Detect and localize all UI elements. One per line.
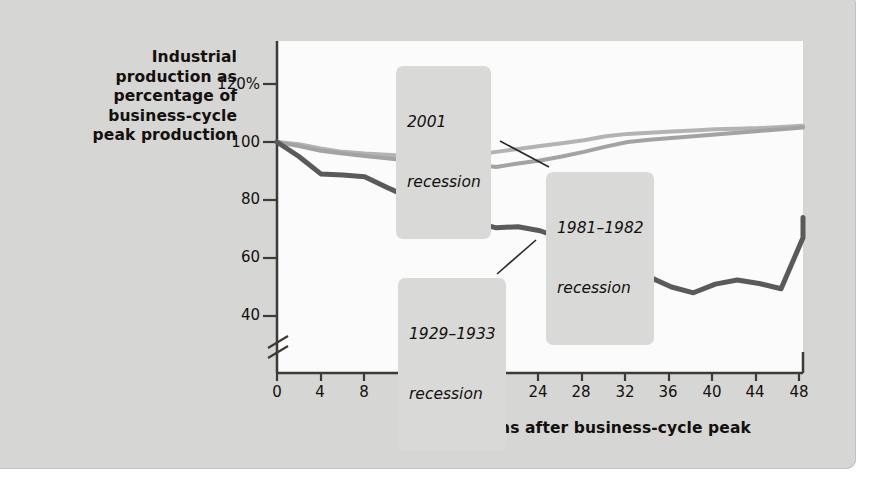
figure-container: Industrial production as percentage of b…: [0, 0, 891, 477]
callout-1929-1933-recession: 1929–1933 recession: [398, 278, 506, 451]
callout-line: recession: [407, 172, 481, 192]
callout-line: 2001: [407, 112, 481, 132]
plot-background: [277, 41, 803, 373]
callout-2001-recession: 2001 recession: [396, 66, 491, 239]
callout-1981-1982-recession: 1981–1982 recession: [546, 172, 654, 345]
callout-line: 1981–1982: [557, 218, 644, 238]
callout-line: 1929–1933: [409, 324, 496, 344]
callout-line: recession: [557, 278, 644, 298]
callout-line: recession: [409, 384, 496, 404]
